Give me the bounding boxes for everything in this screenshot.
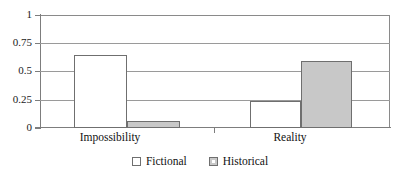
gray-square-icon xyxy=(209,157,218,166)
white-square-icon xyxy=(132,157,141,166)
chart-legend: Fictional Historical xyxy=(0,155,400,167)
bar-reality-fictional xyxy=(250,101,301,128)
x-category-label-reality: Reality xyxy=(227,131,353,143)
y-tick-label-1: 1 xyxy=(27,9,33,20)
y-tick-mark-05 xyxy=(35,71,40,72)
bar-reality-historical xyxy=(301,61,352,128)
bar-chart: 1 0.75 0.5 0.25 0 Impossibility Reality … xyxy=(0,0,400,185)
y-tick-mark-025 xyxy=(35,100,40,101)
y-tick-label-0: 0 xyxy=(27,122,33,133)
y-tick-mark-075 xyxy=(35,43,40,44)
gridline-0-75 xyxy=(40,43,390,44)
bar-impossibility-fictional xyxy=(74,55,127,128)
x-axis-mid-tick xyxy=(214,128,215,133)
legend-entry-historical: Historical xyxy=(209,155,268,167)
legend-label-fictional: Fictional xyxy=(146,155,187,167)
y-tick-mark-0 xyxy=(35,128,40,129)
y-tick-label-05: 0.5 xyxy=(18,65,32,76)
legend-entry-fictional: Fictional xyxy=(132,155,187,167)
plot-frame-top xyxy=(40,15,390,16)
legend-label-historical: Historical xyxy=(223,155,268,167)
y-tick-label-025: 0.25 xyxy=(13,94,32,105)
y-tick-mark-1 xyxy=(35,15,40,16)
x-category-label-impossibility: Impossibility xyxy=(47,131,173,143)
bar-impossibility-historical xyxy=(127,121,180,128)
plot-area xyxy=(40,15,390,128)
y-tick-label-075: 0.75 xyxy=(13,37,32,48)
